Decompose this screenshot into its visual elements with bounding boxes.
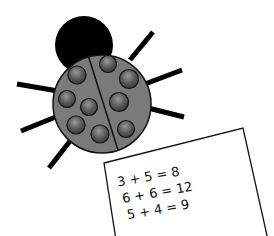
spot-icon [100,56,117,73]
leg-right-bottom [148,108,184,117]
spot-icon [59,91,76,108]
spot-icon [118,121,135,138]
spot-icon [120,70,139,89]
illustration-canvas: 3 + 5 = 8 6 + 6 = 12 5 + 4 = 9 [0,0,274,236]
spot-icon [68,66,86,84]
ladybug-math-illustration: 3 + 5 = 8 6 + 6 = 12 5 + 4 = 9 [0,0,274,236]
leg-right-top [130,32,153,60]
leg-right-middle [145,70,182,84]
leg-left-middle [21,116,58,131]
leg-left-top [17,84,58,91]
spot-icon [91,125,109,143]
spot-icon [67,116,85,134]
spot-icon [110,93,129,112]
spot-icon [81,99,98,116]
